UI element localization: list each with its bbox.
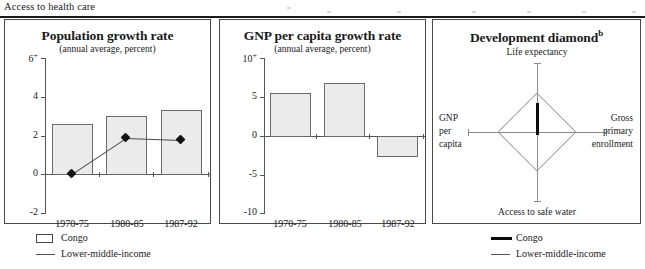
x-tick-1 (316, 134, 317, 139)
scan-speck (472, 11, 476, 13)
diamond-axis-label-gnp-per-capita-line1: GNP (439, 112, 458, 125)
scan-speck (632, 11, 636, 13)
x-tick-3 (423, 134, 424, 139)
legend-swatch-bar-icon (36, 234, 53, 243)
diamond-axis-cap-left (468, 129, 469, 136)
scan-speck (582, 11, 586, 13)
y-tick-6 (41, 58, 46, 59)
scan-speck (527, 11, 531, 13)
x-tick-3 (208, 172, 209, 177)
legend-bar-charts: Congo Lower-middle-income (36, 232, 236, 264)
y-tick-10 (260, 58, 265, 59)
y-axis-label-10: 10+ (220, 51, 257, 64)
y-axis-label-minus2: -2 (5, 206, 38, 217)
y-tick-minus10 (260, 213, 265, 214)
diamond-axis-label-life-expectancy: Life expectancy (467, 46, 607, 59)
bar-congo-1970-75 (270, 93, 311, 137)
legend-swatch-thin-line-icon (491, 254, 510, 255)
panel-gnp-per-capita-growth-rate: GNP per capita growth rate (annual avera… (219, 19, 426, 224)
legend-development-diamond: Congo Lower-middle-income (491, 232, 645, 264)
bar-congo-1980-85 (324, 83, 365, 137)
panel-development-diamond: Development diamondb Life expectancy Acc… (432, 19, 641, 224)
y-axis-label-5: 5 (220, 90, 257, 101)
legend-label-congo: Congo (61, 232, 88, 243)
y-axis-label-minus10: -10 (220, 206, 257, 217)
top-caption: Access to health care (4, 1, 95, 12)
diamond-congo-series (536, 103, 539, 135)
panel-population-growth-rate: Population growth rate (annual average, … (4, 19, 211, 224)
scan-speck (327, 11, 331, 13)
scan-speck (287, 7, 291, 9)
y-axis-label-4: 4 (5, 90, 38, 101)
diamond-axis-label-access-to-safe-water: Access to safe water (457, 206, 617, 219)
legend-label-lower-middle-income: Lower-middle-income (61, 248, 151, 259)
diamond-axis-label-gross-primary-enrollment-line2: primary (543, 125, 633, 138)
y-axis-label-6: 6+ (5, 51, 38, 64)
bar-congo-1980-85 (106, 116, 147, 175)
header-rule (0, 16, 645, 18)
figure-root: Access to health care Population growth … (0, 0, 645, 269)
y-tick-2 (41, 136, 46, 137)
scan-speck (397, 11, 401, 13)
diamond-axis-cap-bottom (534, 201, 541, 202)
y-axis-label-minus5: -5 (220, 168, 257, 179)
diamond-axis-cap-top (534, 63, 541, 64)
legend-swatch-thin-line-icon (36, 254, 55, 255)
legend-label-congo: Congo (516, 232, 543, 243)
x-tick-2 (153, 172, 154, 177)
diamond-axis-label-gross-primary-enrollment-line1: Gross (543, 112, 633, 125)
bar-congo-1970-75 (52, 124, 93, 175)
y-tick-4 (41, 97, 46, 98)
diamond-axis-label-gnp-per-capita-line2: per (439, 125, 451, 138)
y-tick-minus5 (260, 175, 265, 176)
plot-area-population: 6+ 4 2 0 -2 1970-75 1980-85 1987- (5, 20, 210, 223)
diamond-axis-label-gross-primary-enrollment-line3: enrollment (543, 138, 633, 151)
x-axis-label-1987-92: 1987-92 (363, 218, 433, 229)
y-tick-5 (260, 97, 265, 98)
y-axis-label-2: 2 (5, 129, 38, 140)
bar-congo-1987-92 (377, 136, 418, 157)
y-axis-label-0: 0 (5, 167, 38, 178)
y-axis-label-0: 0 (220, 129, 257, 140)
x-tick-1 (99, 172, 100, 177)
diamond-axis-label-gnp-per-capita-line3: capita (439, 138, 462, 151)
y-tick-minus2 (41, 213, 46, 214)
x-axis-label-1987-92: 1987-92 (146, 218, 216, 229)
legend-swatch-thick-line-icon (491, 237, 512, 240)
x-tick-2 (369, 134, 370, 139)
legend-label-lower-middle-income: Lower-middle-income (516, 248, 606, 259)
plot-area-gnp: 10+ 5 0 -5 -10 1970-75 1980-85 1987-92 (220, 20, 425, 223)
diamond-plot-area: Life expectancy Access to safe water GNP… (433, 20, 640, 223)
